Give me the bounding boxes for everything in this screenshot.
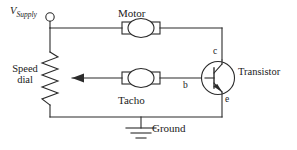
motor-icon [128,19,154,38]
speed-dial-label-line2: dial [5,74,45,85]
speed-dial-label-line1: Speed [12,63,38,74]
speed-dial-label: Speeddial [5,63,45,85]
potentiometer-wiper-arrow-icon [72,74,84,83]
collector-terminal-label: c [213,47,217,57]
ground-label: Ground [152,123,186,135]
supply-label: VSupply [10,5,37,19]
tacho-icon [128,69,154,88]
base-terminal-label: b [183,81,188,91]
supply-label-subscript: Supply [16,10,36,19]
supply-terminal-icon [46,13,54,21]
motor-label: Motor [118,8,146,20]
emitter-terminal-label: e [225,95,229,105]
tacho-label: Tacho [118,95,145,107]
transistor-label: Transistor [238,66,280,77]
circuit-diagram: VSupply Motor Tacho Transistor Ground Sp… [0,0,297,150]
